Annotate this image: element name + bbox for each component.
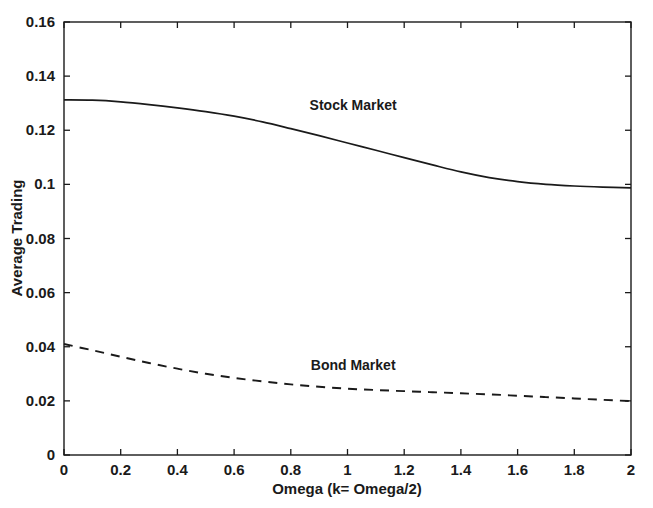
y-tick-label: 0.08	[26, 230, 55, 247]
chart-plot-svg: 00.20.40.60.811.21.41.61.82 00.020.040.0…	[0, 0, 653, 508]
y-tick-label: 0	[47, 446, 55, 463]
y-axis-tick-marks	[64, 22, 631, 455]
x-tick-label: 0.4	[167, 461, 189, 478]
x-tick-label: 0.6	[224, 461, 245, 478]
y-axis-title: Average Trading	[8, 180, 25, 297]
x-axis-tick-labels: 00.20.40.60.811.21.41.61.82	[60, 461, 635, 478]
x-axis-tick-marks	[64, 22, 631, 455]
x-axis-title: Omega (k= Omega/2)	[272, 480, 422, 497]
x-tick-label: 1.6	[507, 461, 528, 478]
x-tick-label: 2	[627, 461, 635, 478]
x-tick-label: 1.2	[394, 461, 415, 478]
y-tick-label: 0.12	[26, 121, 55, 138]
y-axis-tick-labels: 00.020.040.060.080.10.120.140.16	[26, 13, 56, 463]
y-tick-label: 0.06	[26, 284, 55, 301]
series-annotation-stock-market: Stock Market	[310, 97, 397, 113]
y-tick-label: 0.02	[26, 392, 55, 409]
x-tick-label: 0.8	[280, 461, 301, 478]
y-tick-label: 0.04	[26, 338, 56, 355]
plot-frame	[64, 22, 631, 455]
x-tick-label: 1.8	[564, 461, 585, 478]
y-tick-label: 0.16	[26, 13, 55, 30]
x-tick-label: 0	[60, 461, 68, 478]
x-tick-label: 1.4	[450, 461, 472, 478]
x-tick-label: 1	[343, 461, 351, 478]
chart-figure: 00.20.40.60.811.21.41.61.82 00.020.040.0…	[0, 0, 653, 508]
y-tick-label: 0.1	[34, 175, 55, 192]
series-annotation-bond-market: Bond Market	[311, 357, 396, 373]
x-tick-label: 0.2	[110, 461, 131, 478]
series-line-stock-market	[64, 100, 631, 188]
y-tick-label: 0.14	[26, 67, 56, 84]
